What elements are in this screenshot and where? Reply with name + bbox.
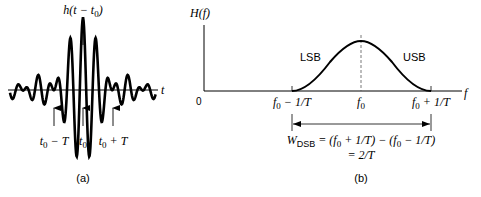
usb-label: USB (403, 51, 426, 63)
signal-label: h(t − t0) (63, 3, 102, 19)
marker-label-t0-plus-T: t0 + T (99, 134, 129, 150)
marker-label-t0-minus-T: t0 − T (40, 134, 70, 150)
caption-a: (a) (76, 172, 89, 184)
time-axis-label: t (161, 83, 165, 97)
panel-a: h(t − t0) t t0 − T t0 t0 + T (a) (8, 3, 165, 184)
origin-label: 0 (196, 96, 202, 107)
y-axis-label: H(f) (189, 6, 210, 20)
bandwidth-formula-line1: WDSB = (f0 + 1/T) − (f0 − 1/T) (287, 133, 436, 149)
tick-label-f0: f0 (357, 95, 365, 111)
diagram-canvas: h(t − t0) t t0 − T t0 t0 + T (a) H(f) f (0, 0, 481, 197)
tick-label-f0-plus: f0 + 1/T (412, 95, 451, 111)
bandwidth-formula-line2: = 2/T (347, 148, 375, 162)
x-axis-label: f (464, 86, 469, 100)
caption-b: (b) (354, 172, 367, 184)
tick-label-f0-minus: f0 − 1/T (273, 95, 312, 111)
dsb-spectrum-curve (292, 41, 431, 91)
marker-label-t0: t0 (79, 134, 87, 150)
lsb-label: LSB (300, 51, 321, 63)
panel-b: H(f) f 0 LSB USB f0 − 1/T f0 f0 + 1/T WD… (189, 6, 469, 184)
